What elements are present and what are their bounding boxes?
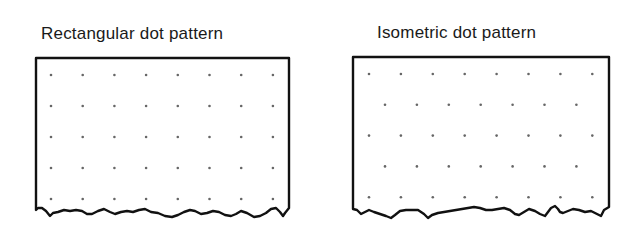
grid-dot bbox=[113, 105, 116, 108]
grid-dot bbox=[272, 198, 275, 201]
grid-dot bbox=[463, 73, 466, 76]
grid-dot bbox=[384, 165, 387, 168]
grid-dot bbox=[543, 104, 546, 107]
grid-dot bbox=[416, 165, 419, 168]
grid-dot bbox=[208, 167, 211, 170]
grid-dot bbox=[432, 73, 435, 76]
grid-dot bbox=[145, 136, 148, 139]
grid-dot bbox=[575, 104, 578, 107]
grid-dot bbox=[495, 134, 498, 137]
grid-dot bbox=[448, 165, 451, 168]
grid-dot bbox=[479, 104, 482, 107]
grid-dot bbox=[145, 105, 148, 108]
grid-dot bbox=[81, 167, 84, 170]
grid-dot bbox=[50, 74, 53, 77]
grid-dot bbox=[495, 196, 498, 199]
grid-dot bbox=[113, 167, 116, 170]
grid-dot bbox=[527, 73, 530, 76]
grid-dot bbox=[543, 165, 546, 168]
grid-dot bbox=[272, 74, 275, 77]
grid-dot bbox=[81, 105, 84, 108]
grid-dot bbox=[432, 196, 435, 199]
grid-dot bbox=[272, 105, 275, 108]
grid-dot bbox=[272, 167, 275, 170]
grid-dot bbox=[559, 73, 562, 76]
grid-dot bbox=[527, 134, 530, 137]
grid-dot bbox=[177, 167, 180, 170]
rectangular-dot-panel bbox=[36, 58, 289, 217]
grid-dot bbox=[50, 105, 53, 108]
grid-dot bbox=[400, 73, 403, 76]
grid-dot bbox=[591, 196, 594, 199]
grid-dot bbox=[463, 196, 466, 199]
grid-dot bbox=[575, 165, 578, 168]
grid-dot bbox=[272, 136, 275, 139]
grid-dot bbox=[511, 104, 514, 107]
grid-dot bbox=[591, 134, 594, 137]
grid-dot bbox=[50, 167, 53, 170]
grid-dot bbox=[240, 198, 243, 201]
grid-dot bbox=[208, 136, 211, 139]
grid-dot bbox=[591, 73, 594, 76]
grid-dot bbox=[559, 134, 562, 137]
grid-dot bbox=[240, 74, 243, 77]
grid-dot bbox=[400, 134, 403, 137]
grid-dot bbox=[384, 104, 387, 107]
grid-dot bbox=[208, 74, 211, 77]
grid-dot bbox=[208, 198, 211, 201]
grid-dot bbox=[368, 134, 371, 137]
grid-dot bbox=[81, 74, 84, 77]
grid-dot bbox=[240, 167, 243, 170]
grid-dot bbox=[113, 136, 116, 139]
grid-dot bbox=[432, 134, 435, 137]
grid-dot bbox=[208, 105, 211, 108]
grid-dot bbox=[463, 134, 466, 137]
grid-dot bbox=[81, 136, 84, 139]
panel-outline bbox=[36, 58, 289, 217]
grid-dot bbox=[527, 196, 530, 199]
grid-dot bbox=[368, 73, 371, 76]
grid-dot bbox=[495, 73, 498, 76]
grid-dot bbox=[416, 104, 419, 107]
grid-dot bbox=[50, 198, 53, 201]
grid-dot bbox=[177, 198, 180, 201]
grid-dot bbox=[50, 136, 53, 139]
panel-outline bbox=[353, 57, 609, 218]
grid-dot bbox=[81, 198, 84, 201]
grid-dot bbox=[479, 165, 482, 168]
grid-dot bbox=[145, 74, 148, 77]
grid-dot bbox=[368, 196, 371, 199]
grid-dot bbox=[448, 104, 451, 107]
grid-dot bbox=[145, 167, 148, 170]
isometric-dot-panel bbox=[353, 57, 609, 218]
grid-dot bbox=[113, 198, 116, 201]
grid-dot bbox=[177, 74, 180, 77]
grid-dot bbox=[240, 105, 243, 108]
grid-dot bbox=[177, 105, 180, 108]
grid-dot bbox=[145, 198, 148, 201]
grid-dot bbox=[113, 74, 116, 77]
grid-dot bbox=[511, 165, 514, 168]
grid-dot bbox=[400, 196, 403, 199]
grid-dot bbox=[240, 136, 243, 139]
grid-dot bbox=[177, 136, 180, 139]
grid-dot bbox=[559, 196, 562, 199]
